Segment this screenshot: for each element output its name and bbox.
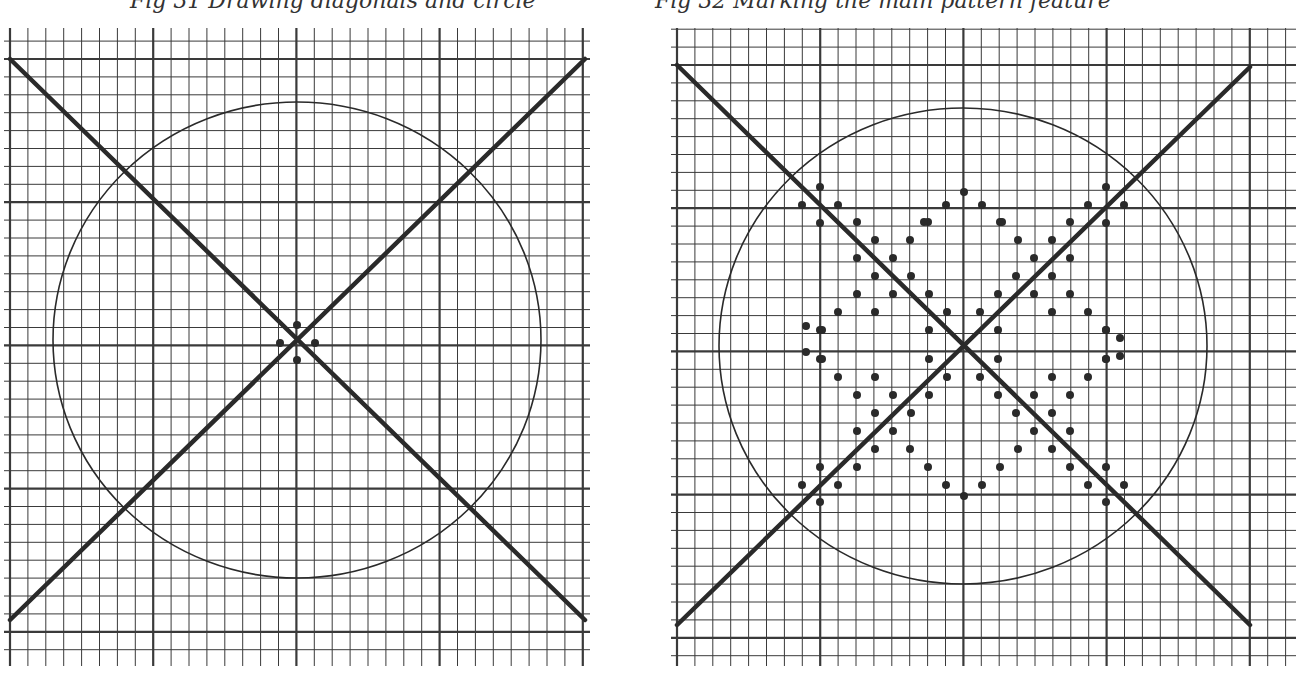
panel-left	[4, 28, 590, 666]
panel-right	[671, 28, 1296, 666]
graph-paper-diagram	[0, 0, 1316, 694]
grid-right	[671, 28, 1296, 666]
grid-left	[4, 28, 590, 666]
